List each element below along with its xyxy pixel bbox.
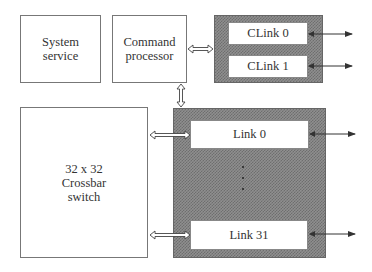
- crossbar-link31-double-arrow: [150, 231, 190, 239]
- cmd-clink-double-arrow: [188, 45, 213, 53]
- cmd-link-double-arrow: [177, 84, 185, 107]
- output-arrows: [309, 34, 355, 234]
- crossbar-link0-double-arrow: [150, 131, 190, 139]
- arrows-layer: [0, 0, 372, 272]
